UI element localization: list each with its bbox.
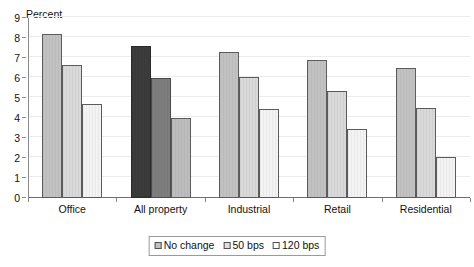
legend-swatch-icon xyxy=(223,242,230,249)
bar xyxy=(62,65,82,198)
x-axis-category-label: Industrial xyxy=(205,203,293,216)
bar xyxy=(82,104,102,198)
y-axis: 0123456789 xyxy=(0,18,28,198)
bar xyxy=(416,108,436,198)
y-axis-tick-mark xyxy=(22,77,26,78)
x-axis-tick-mark xyxy=(293,198,294,202)
bar-chart: Percent 0123456789 OfficeAll propertyInd… xyxy=(0,0,474,267)
legend-swatch-icon xyxy=(273,242,280,249)
y-axis-tick-label: 6 xyxy=(0,73,20,83)
bar xyxy=(436,157,456,198)
legend-item-120-bps[interactable]: 120 bps xyxy=(273,239,319,252)
y-axis-tick-label: 1 xyxy=(0,173,20,183)
bar xyxy=(131,46,151,198)
x-axis-category-label: Office xyxy=(28,203,116,216)
legend: No change 50 bps 120 bps xyxy=(149,236,326,256)
y-axis-tick-mark xyxy=(22,197,26,198)
legend-swatch-icon xyxy=(155,242,162,249)
y-axis-tick-mark xyxy=(22,37,26,38)
y-axis-tick-mark xyxy=(22,177,26,178)
y-axis-tick-label: 5 xyxy=(0,93,20,103)
bar xyxy=(327,91,347,198)
bar xyxy=(307,60,327,198)
y-axis-tick-label: 8 xyxy=(0,33,20,43)
bar xyxy=(259,109,279,198)
y-axis-tick-mark xyxy=(22,157,26,158)
bars-layer xyxy=(28,18,470,198)
legend-item-no-change[interactable]: No change xyxy=(155,239,215,252)
y-axis-tick-mark xyxy=(22,137,26,138)
bar xyxy=(219,52,239,198)
bar xyxy=(239,77,259,198)
gridline xyxy=(29,16,470,17)
x-axis-tick-mark xyxy=(28,198,29,202)
y-axis-tick-label: 3 xyxy=(0,133,20,143)
legend-label: 120 bps xyxy=(282,239,319,252)
bar xyxy=(151,78,171,198)
y-axis-tick-mark xyxy=(22,97,26,98)
bar xyxy=(347,129,367,198)
legend-label: No change xyxy=(164,239,215,252)
y-axis-tick-label: 4 xyxy=(0,113,20,123)
y-axis-tick-label: 9 xyxy=(0,13,20,23)
x-axis-category-label: Residential xyxy=(382,203,470,216)
x-axis-category-label: Retail xyxy=(293,203,381,216)
y-axis-tick-label: 2 xyxy=(0,153,20,163)
bar xyxy=(171,118,191,198)
legend-item-50-bps[interactable]: 50 bps xyxy=(223,239,264,252)
x-axis-tick-mark xyxy=(205,198,206,202)
legend-label: 50 bps xyxy=(232,239,264,252)
y-axis-tick-label: 0 xyxy=(0,193,20,203)
y-axis-tick-mark xyxy=(22,117,26,118)
x-axis-tick-mark xyxy=(470,198,471,202)
y-axis-tick-mark xyxy=(22,57,26,58)
x-axis-tick-mark xyxy=(116,198,117,202)
y-axis-tick-label: 7 xyxy=(0,53,20,63)
bar xyxy=(42,34,62,198)
bar xyxy=(396,68,416,198)
x-axis-category-label: All property xyxy=(116,203,204,216)
y-axis-tick-mark xyxy=(22,17,26,18)
x-axis-tick-mark xyxy=(382,198,383,202)
